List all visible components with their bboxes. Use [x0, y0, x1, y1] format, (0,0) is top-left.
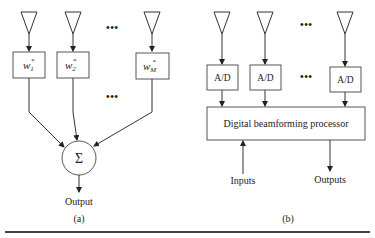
ad-label-m: A/D [337, 75, 354, 85]
inputs-label: Inputs [231, 175, 256, 186]
caption-b: (b) [282, 213, 294, 225]
ad-label-2: A/D [257, 73, 274, 83]
panel-b: ••• A/D A/D A/D ••• Digital beamforming … [207, 12, 365, 225]
beamforming-diagram: ••• w1* w2* wM* ••• Σ Output (a) ••• [0, 0, 375, 238]
antenna-icon [65, 12, 81, 34]
antenna-icon [257, 12, 273, 34]
ad-label-1: A/D [214, 73, 231, 83]
caption-a: (a) [73, 213, 84, 225]
processor-label: Digital beamforming processor [224, 118, 350, 129]
ellipsis-middle: ••• [300, 70, 313, 84]
ellipsis-top: ••• [106, 21, 119, 35]
weight-label-2: w2* [65, 57, 77, 73]
sigma-symbol: Σ [75, 151, 83, 166]
ellipsis-middle: ••• [106, 90, 119, 104]
ellipsis-top: ••• [300, 18, 313, 32]
antenna-icon [21, 12, 37, 34]
antenna-icon [337, 12, 353, 34]
output-label: Output [65, 196, 93, 207]
weight-label-1: w1* [23, 57, 35, 73]
bottom-rule [5, 231, 370, 233]
outputs-label: Outputs [314, 174, 346, 185]
panel-a: ••• w1* w2* wM* ••• Σ Output (a) [13, 12, 169, 225]
antenna-icon [214, 12, 230, 34]
antenna-icon [144, 12, 160, 34]
weight-label-m: wM* [143, 58, 157, 74]
